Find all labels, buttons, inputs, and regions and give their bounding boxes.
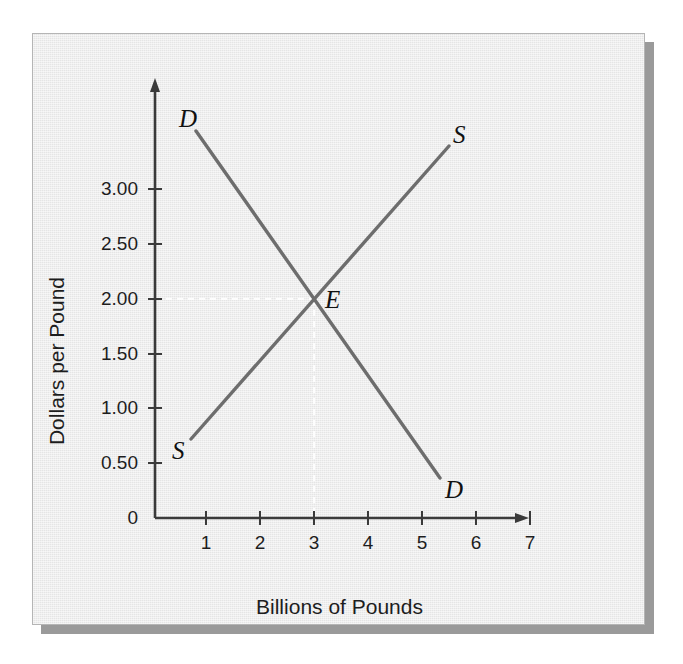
x-tick-label-5: 5 <box>417 532 428 554</box>
y-axis-arrowhead <box>150 78 160 92</box>
figure-root: 3.00 2.50 2.00 1.50 1.00 0.50 0 1 2 3 4 … <box>0 0 683 664</box>
demand-curve-label-top: D <box>179 105 197 133</box>
y-tick-label-1.50: 1.50 <box>73 343 138 365</box>
x-tick-label-3: 3 <box>309 532 320 554</box>
plot-area-svg <box>33 34 645 625</box>
x-axis-arrowhead <box>515 513 529 523</box>
x-tick-label-4: 4 <box>363 532 374 554</box>
y-tick-label-2.00: 2.00 <box>73 288 138 310</box>
supply-curve-label-bottom: S <box>172 437 185 465</box>
x-tick-label-2: 2 <box>255 532 266 554</box>
supply-curve-label-top: S <box>453 121 466 149</box>
demand-curve-label-bottom: D <box>445 476 463 504</box>
supply-curve <box>191 146 449 439</box>
y-tick-label-2.50: 2.50 <box>73 233 138 255</box>
y-tick-label-0: 0 <box>73 507 138 529</box>
equilibrium-point-label: E <box>325 286 340 314</box>
x-tick-label-6: 6 <box>471 532 482 554</box>
x-tick-label-1: 1 <box>201 532 212 554</box>
x-axis-title: Billions of Pounds <box>33 595 645 619</box>
x-tick-label-7: 7 <box>525 532 536 554</box>
y-tick-label-3.00: 3.00 <box>73 178 138 200</box>
y-tick-label-1.00: 1.00 <box>73 397 138 419</box>
supply-demand-chart-panel: 3.00 2.50 2.00 1.50 1.00 0.50 0 1 2 3 4 … <box>32 33 645 625</box>
demand-curve <box>196 131 440 478</box>
y-tick-label-0.50: 0.50 <box>73 452 138 474</box>
y-axis-title: Dollars per Pound <box>45 231 69 491</box>
